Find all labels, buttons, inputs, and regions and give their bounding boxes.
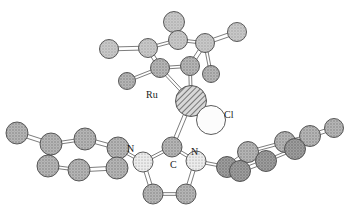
atom-c-cy4 <box>151 59 170 78</box>
atom-c-ar2 <box>106 157 128 179</box>
atom-label-nitrogen-right: N <box>191 147 198 157</box>
atom-c-ar7 <box>6 122 28 144</box>
atom-c-im2 <box>176 184 196 204</box>
atom-c-cy9 <box>203 66 220 83</box>
atom-c-cy2 <box>196 34 215 53</box>
atom-c-cy6 <box>164 12 185 33</box>
atom-c-br4 <box>256 151 277 172</box>
molecular-structure-figure: Ru Cl N C N <box>0 0 355 218</box>
bond <box>117 46 141 50</box>
atom-c-br6 <box>285 139 306 160</box>
atom-c-cy10 <box>119 73 136 90</box>
atom-c-ar1 <box>107 137 129 159</box>
bond <box>161 193 178 196</box>
atom-c-ar4 <box>68 159 90 181</box>
atom-layer <box>6 12 344 205</box>
molecule-canvas <box>0 0 355 218</box>
bond <box>88 167 109 172</box>
atom-c-cy5 <box>139 39 158 58</box>
atom-c-cy3 <box>181 57 200 76</box>
atom-label-ru: Ru <box>146 90 158 100</box>
atom-label-nitrogen-left: N <box>127 144 134 154</box>
atom-c-ar5 <box>40 133 62 155</box>
atom-c-cy8 <box>228 23 247 42</box>
atom-n-nl1 <box>133 152 153 172</box>
atom-c-ar3 <box>74 128 96 150</box>
atom-label-carbene-carbon: C <box>170 160 177 170</box>
atom-cl-cl1 <box>197 106 226 135</box>
atom-c-cy1 <box>169 31 188 50</box>
bond <box>133 70 154 80</box>
atom-c-cy7 <box>100 40 119 59</box>
bond <box>256 143 277 151</box>
atom-c-cb1 <box>162 137 182 157</box>
atom-c-ar6 <box>37 155 59 177</box>
atom-label-cl: Cl <box>224 110 233 120</box>
atom-c-br8 <box>325 119 344 138</box>
atom-c-br2 <box>230 161 251 182</box>
atom-c-im1 <box>143 184 163 204</box>
